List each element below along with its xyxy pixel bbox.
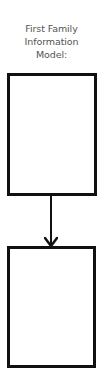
title-line-2: Information xyxy=(0,35,103,48)
model-box-top xyxy=(7,73,97,196)
title-line-1: First Family xyxy=(0,22,103,35)
diagram-title: First Family Information Model: xyxy=(0,22,103,61)
title-line-3: Model: xyxy=(0,48,103,61)
model-box-bottom xyxy=(7,246,96,368)
